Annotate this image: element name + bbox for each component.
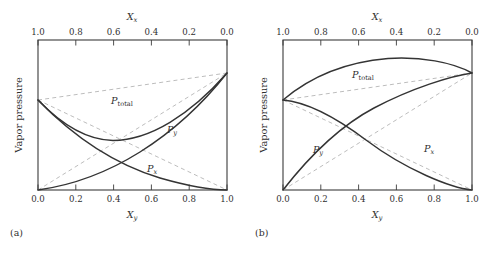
- top-tick-labels-a: 1.0 0.8 0.6 0.4 0.2 0.0: [31, 27, 234, 37]
- bottom-tick-label-a-1: 0.2: [69, 194, 83, 204]
- ideal-py-line-a: [38, 73, 227, 190]
- ideal-py-line-b: [283, 73, 472, 190]
- top-tick-label-a-3: 0.4: [145, 27, 159, 37]
- top-tick-label-a-0: 1.0: [31, 27, 45, 37]
- bottom-tick-label-b-4: 0.8: [427, 194, 441, 204]
- bottom-tick-label-a-3: 0.6: [145, 194, 159, 204]
- curve-label-total-a: Ptotal: [110, 95, 133, 108]
- bottom-tick-label-b-0: 0.0: [276, 194, 290, 204]
- top-tick-label-b-0: 1.0: [276, 27, 290, 37]
- top-tick-label-a-5: 0.0: [220, 27, 234, 37]
- top-axis-ticks-b: [283, 40, 472, 46]
- y-axis-label-b: Vapor pressure: [258, 77, 269, 154]
- panel-b-plot: Ptotal Py Px 1.0 0.8 0.6 0.4 0.2 0.0 0.0…: [246, 0, 493, 255]
- bottom-tick-labels-b: 0.0 0.2 0.4 0.6 0.8 1.0: [276, 194, 479, 204]
- top-tick-label-b-3: 0.4: [390, 27, 404, 37]
- bottom-tick-label-a-2: 0.4: [107, 194, 121, 204]
- top-axis-ticks-a: [38, 40, 227, 46]
- top-tick-label-b-5: 0.0: [465, 27, 479, 37]
- top-axis-name-b: Xx: [371, 11, 383, 24]
- y-axis-label-a: Vapor pressure: [13, 77, 24, 154]
- ideal-px-line-b: [283, 100, 472, 190]
- bottom-tick-label-a-0: 0.0: [31, 194, 45, 204]
- panel-caption-a: (a): [10, 227, 23, 238]
- top-tick-label-a-2: 0.6: [107, 27, 121, 37]
- top-tick-label-b-2: 0.6: [352, 27, 366, 37]
- panel-a: Ptotal Py Px 1.0 0.8 0.6 0.4 0.2 0.0 0.0…: [0, 0, 247, 255]
- bottom-tick-label-a-4: 0.8: [182, 194, 196, 204]
- bottom-tick-label-b-2: 0.4: [352, 194, 366, 204]
- ideal-total-line-a: [38, 73, 227, 100]
- bottom-axis-name-b: Xy: [371, 209, 383, 222]
- ideal-total-line-b: [283, 73, 472, 100]
- top-tick-label-b-1: 0.8: [314, 27, 328, 37]
- top-tick-label-b-4: 0.2: [427, 27, 441, 37]
- curve-label-px-b: Px: [423, 143, 434, 156]
- vapor-pressure-figure: Ptotal Py Px 1.0 0.8 0.6 0.4 0.2 0.0 0.0…: [0, 0, 493, 255]
- curve-label-total-b: Ptotal: [351, 69, 374, 82]
- panel-a-plot: Ptotal Py Px 1.0 0.8 0.6 0.4 0.2 0.0 0.0…: [0, 0, 247, 255]
- bottom-tick-labels-a: 0.0 0.2 0.4 0.6 0.8 1.0: [31, 194, 234, 204]
- top-tick-label-a-4: 0.2: [182, 27, 196, 37]
- bottom-axis-ticks-b: [283, 185, 472, 191]
- bottom-tick-label-a-5: 1.0: [220, 194, 234, 204]
- bottom-tick-label-b-3: 0.6: [390, 194, 404, 204]
- top-tick-label-a-1: 0.8: [69, 27, 83, 37]
- bottom-tick-label-b-1: 0.2: [314, 194, 328, 204]
- panel-b: Ptotal Py Px 1.0 0.8 0.6 0.4 0.2 0.0 0.0…: [246, 0, 493, 255]
- bottom-axis-name-a: Xy: [126, 209, 138, 222]
- top-axis-name-a: Xx: [126, 11, 138, 24]
- panel-caption-b: (b): [255, 227, 268, 238]
- ideal-px-line-a: [38, 100, 227, 190]
- top-tick-labels-b: 1.0 0.8 0.6 0.4 0.2 0.0: [276, 27, 479, 37]
- bottom-tick-label-b-5: 1.0: [465, 194, 479, 204]
